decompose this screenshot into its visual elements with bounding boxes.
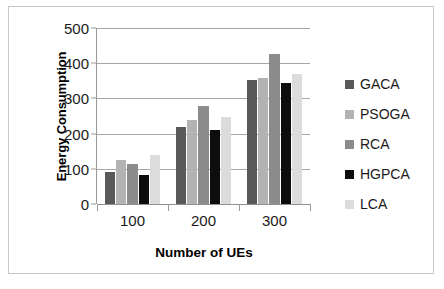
legend-swatch-GACA bbox=[345, 80, 354, 89]
legend-swatch-HGPCA bbox=[345, 170, 354, 179]
legend-label-PSOGA: PSOGA bbox=[360, 106, 410, 122]
legend-label-GACA: GACA bbox=[360, 76, 400, 92]
bar-PSOGA-300 bbox=[258, 78, 269, 204]
y-tick-mark-400 bbox=[91, 63, 96, 64]
chart-legend: GACAPSOGARCAHGPCALCA bbox=[345, 69, 437, 219]
y-tick-mark-300 bbox=[91, 98, 96, 99]
bar-PSOGA-200 bbox=[187, 120, 198, 204]
bar-group-300 bbox=[247, 28, 303, 204]
x-tick-mark-1 bbox=[168, 204, 169, 211]
x-tick-mark-2 bbox=[239, 204, 240, 211]
x-tick-label-300: 300 bbox=[262, 212, 287, 229]
bar-GACA-100 bbox=[105, 172, 116, 204]
legend-entry-RCA[interactable]: RCA bbox=[345, 129, 437, 159]
y-tick-mark-500 bbox=[91, 28, 96, 29]
bar-GACA-200 bbox=[176, 127, 187, 204]
x-axis-title: Number of UEs bbox=[69, 245, 339, 260]
legend-swatch-RCA bbox=[345, 140, 354, 149]
legend-entry-HGPCA[interactable]: HGPCA bbox=[345, 159, 437, 189]
bar-group-100 bbox=[105, 28, 161, 204]
bar-group-200 bbox=[176, 28, 232, 204]
legend-swatch-PSOGA bbox=[345, 110, 354, 119]
bar-LCA-300 bbox=[292, 74, 303, 204]
x-tick-label-100: 100 bbox=[120, 212, 145, 229]
legend-label-HGPCA: HGPCA bbox=[360, 166, 410, 182]
legend-entry-GACA[interactable]: GACA bbox=[345, 69, 437, 99]
bar-HGPCA-300 bbox=[281, 83, 292, 204]
bar-GACA-300 bbox=[247, 80, 258, 204]
y-tick-label-200: 200 bbox=[64, 125, 89, 142]
bar-RCA-100 bbox=[127, 164, 138, 204]
y-tick-mark-200 bbox=[91, 133, 96, 134]
bar-PSOGA-100 bbox=[116, 160, 127, 204]
bar-RCA-300 bbox=[269, 54, 280, 204]
legend-entry-PSOGA[interactable]: PSOGA bbox=[345, 99, 437, 129]
legend-swatch-LCA bbox=[345, 200, 354, 209]
chart-frame: Energy Consumption 0100200300400500 1002… bbox=[8, 6, 434, 274]
plot-area: 0100200300400500 100200300 bbox=[97, 28, 310, 204]
bar-LCA-200 bbox=[221, 117, 232, 204]
bar-HGPCA-200 bbox=[210, 130, 221, 204]
y-tick-label-300: 300 bbox=[64, 90, 89, 107]
legend-entry-LCA[interactable]: LCA bbox=[345, 189, 437, 219]
bar-LCA-100 bbox=[150, 155, 161, 204]
x-tick-mark-0 bbox=[97, 204, 98, 211]
bar-HGPCA-100 bbox=[139, 175, 150, 204]
y-tick-label-500: 500 bbox=[64, 20, 89, 37]
y-tick-label-100: 100 bbox=[64, 160, 89, 177]
x-tick-mark-end bbox=[310, 204, 311, 211]
legend-label-RCA: RCA bbox=[360, 136, 390, 152]
x-tick-label-200: 200 bbox=[191, 212, 216, 229]
bar-RCA-200 bbox=[198, 106, 209, 204]
gridline-0 bbox=[97, 204, 310, 205]
bars-layer bbox=[97, 28, 310, 204]
y-tick-label-0: 0 bbox=[81, 196, 89, 213]
y-tick-mark-0 bbox=[91, 204, 96, 205]
y-tick-label-400: 400 bbox=[64, 55, 89, 72]
legend-label-LCA: LCA bbox=[360, 196, 387, 212]
y-tick-mark-100 bbox=[91, 168, 96, 169]
y-axis-title: Energy Consumption bbox=[54, 27, 69, 207]
